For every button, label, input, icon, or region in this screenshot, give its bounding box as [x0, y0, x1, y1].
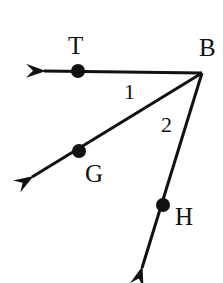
point-h	[156, 198, 170, 212]
label-b: B	[199, 34, 216, 61]
ray-bg	[32, 73, 202, 177]
point-t	[71, 64, 85, 78]
label-t: T	[68, 32, 83, 59]
point-g	[72, 144, 86, 158]
label-g: G	[85, 160, 103, 187]
ray-bt	[44, 71, 202, 73]
ray-bh	[142, 73, 202, 268]
label-h: H	[175, 203, 193, 230]
angle-diagram: T B G H 1 2	[0, 0, 223, 283]
angle-1-label: 1	[124, 79, 135, 104]
angle-2-label: 2	[161, 112, 172, 137]
